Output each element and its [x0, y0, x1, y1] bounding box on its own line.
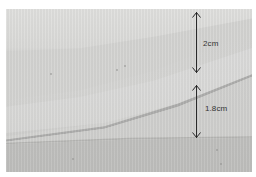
arrow-down-icon [192, 132, 201, 138]
fabric-speck [216, 149, 218, 151]
measurement-label-1-8cm: 1.8cm [205, 104, 227, 113]
arrow-up-icon [192, 85, 201, 91]
measurement-label-2cm: 2cm [203, 39, 218, 48]
arrow-shaft [196, 12, 197, 73]
arrow-down-icon [192, 67, 201, 73]
fabric-photo [6, 9, 252, 172]
fabric-speck [116, 69, 118, 71]
arrow-shaft [196, 85, 197, 138]
measurement-arrow-1-8cm [192, 85, 202, 138]
arrow-up-icon [192, 12, 201, 18]
measurement-arrow-2cm [192, 12, 202, 73]
fabric-speck [72, 158, 74, 160]
fabric-speck [124, 65, 126, 67]
fabric-speck [220, 163, 222, 165]
fabric-speck [50, 73, 52, 75]
